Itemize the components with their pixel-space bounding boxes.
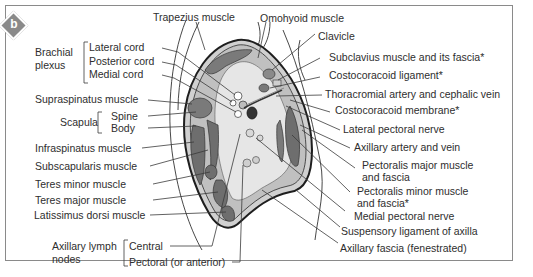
axillary-lymph-nodes-group-label: Axillary lymph nodes xyxy=(52,240,117,266)
pectoralis-major-line1: Pectoralis major muscle xyxy=(362,159,473,171)
medial-cord-label: Medial cord xyxy=(89,68,143,80)
trapezius-label: Trapezius muscle xyxy=(153,11,235,23)
scapula-label: Scapula xyxy=(60,116,98,128)
supraspinatus-label: Supraspinatus muscle xyxy=(35,93,138,105)
posterior-cord-label: Posterior cord xyxy=(89,55,154,67)
pectoralis-minor-line1: Pectoralis minor muscle xyxy=(357,185,468,197)
pectoralis-major-label: Pectoralis major muscle and fascia xyxy=(362,159,473,183)
pectoral-nodes-label: Pectoral (or anterior) xyxy=(129,256,225,268)
costocoracoid-membrane-label: Costocoracoid membrane* xyxy=(335,104,459,116)
costocoracoid-ligament-label: Costocoracoid ligament* xyxy=(329,69,443,81)
axillary-fascia-label: Axillary fascia (fenestrated) xyxy=(340,242,467,254)
lateral-pectoral-nerve-label: Lateral pectoral nerve xyxy=(343,123,445,135)
subscapularis-label: Subscapularis muscle xyxy=(35,160,137,172)
central-nodes-label: Central xyxy=(129,240,163,252)
pectoralis-minor-label: Pectoralis minor muscle and fascia* xyxy=(357,185,468,209)
axillary-artery-vein-label: Axillary artery and vein xyxy=(354,141,460,153)
latissimus-dorsi-label: Latissimus dorsi muscle xyxy=(34,209,145,221)
clavicle-label: Clavicle xyxy=(318,30,355,42)
lymph-nodes-label-line1: Axillary lymph xyxy=(52,240,117,253)
pectoralis-major-line2: and fascia xyxy=(362,171,473,183)
suspensory-ligament-label: Suspensory ligament of axilla xyxy=(341,225,478,237)
brachial-plexus-label-line1: Brachial xyxy=(35,46,73,59)
lymph-nodes-label-line2: nodes xyxy=(52,253,117,266)
omohyoid-label: Omohyoid muscle xyxy=(260,12,344,24)
teres-minor-label: Teres minor muscle xyxy=(35,178,126,190)
teres-major-label: Teres major muscle xyxy=(35,194,126,206)
thoracromial-artery-label: Thoracromial artery and cephalic vein xyxy=(325,88,500,100)
infraspinatus-label: Infraspinatus muscle xyxy=(35,142,131,154)
brachial-plexus-label-line2: plexus xyxy=(35,59,73,72)
subclavius-label: Subclavius muscle and its fascia* xyxy=(329,51,484,63)
scapula-spine-label: Spine xyxy=(111,110,138,122)
scapula-body-label: Body xyxy=(111,122,135,134)
brachial-plexus-group-label: Brachial plexus xyxy=(35,46,73,72)
lateral-cord-label: Lateral cord xyxy=(89,41,144,53)
medial-pectoral-nerve-label: Medial pectoral nerve xyxy=(354,210,454,222)
pectoralis-minor-line2: and fascia* xyxy=(357,197,468,209)
